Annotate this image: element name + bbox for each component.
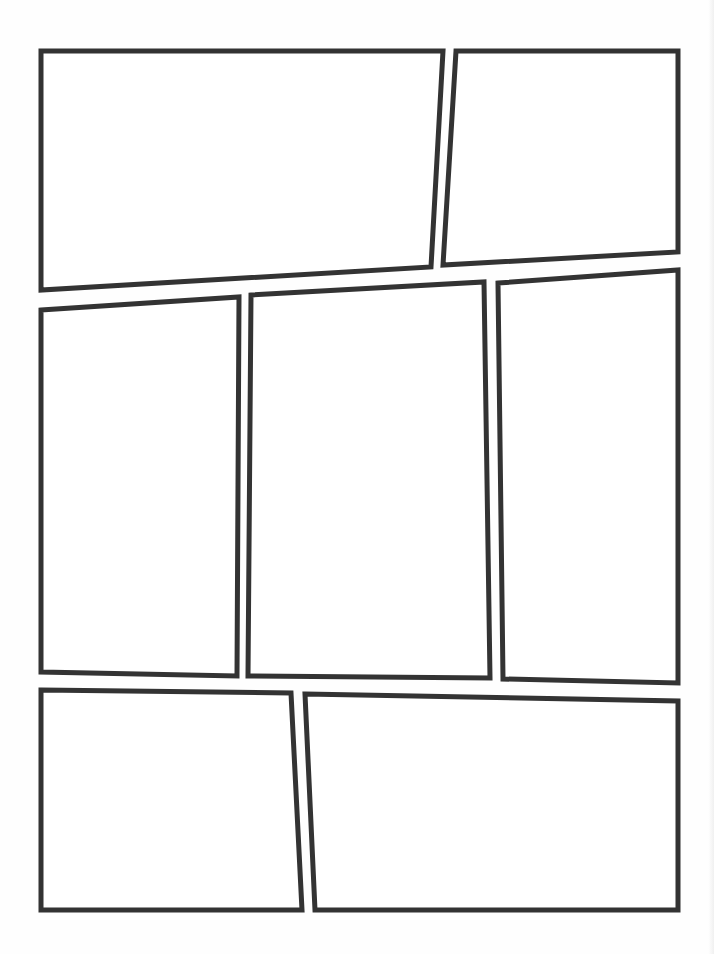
panel-5 <box>498 270 678 683</box>
panel-2 <box>443 51 678 265</box>
panel-layout <box>0 0 714 954</box>
page-edge-shadow <box>708 0 714 954</box>
panel-4 <box>248 282 490 678</box>
comic-page <box>0 0 714 954</box>
panel-6 <box>41 690 302 910</box>
panel-3 <box>41 297 239 676</box>
panel-1 <box>41 51 443 290</box>
panel-7 <box>305 694 678 910</box>
